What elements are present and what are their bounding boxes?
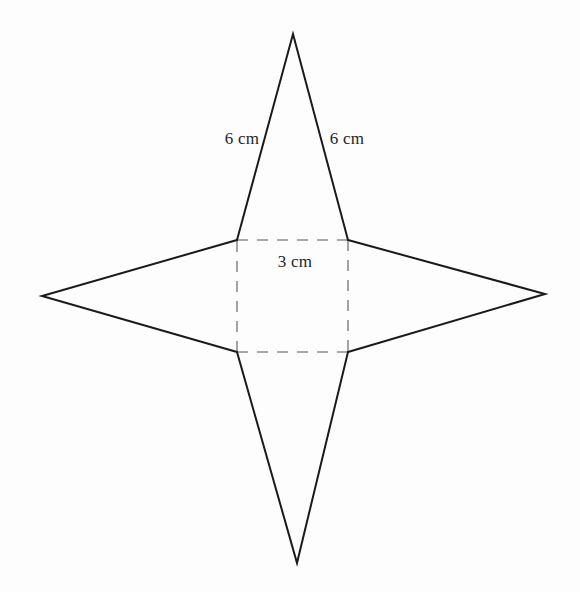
geometry-figure: 6 cm 6 cm 3 cm bbox=[0, 0, 580, 592]
figure-canvas bbox=[0, 0, 580, 592]
slant-length-right-label: 6 cm bbox=[330, 130, 364, 147]
slant-length-left-label: 6 cm bbox=[225, 130, 259, 147]
figure-background bbox=[0, 0, 580, 592]
base-length-label: 3 cm bbox=[278, 253, 312, 270]
